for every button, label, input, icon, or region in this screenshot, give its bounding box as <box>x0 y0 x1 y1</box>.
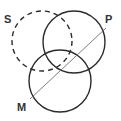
label-s: S <box>4 13 11 25</box>
circle-s <box>12 11 72 71</box>
circle-m <box>29 50 91 112</box>
circle-p <box>43 11 105 73</box>
diagonal-line <box>30 28 106 99</box>
label-p: P <box>105 13 112 25</box>
label-m: M <box>17 101 26 113</box>
venn-diagram: S P M <box>0 0 121 121</box>
